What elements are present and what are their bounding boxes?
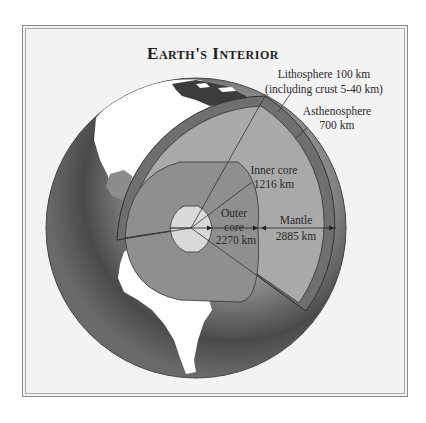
asthenosphere-label: Asthenosphere xyxy=(303,105,371,118)
inner-core-layer xyxy=(170,206,212,252)
lithosphere-label: Lithosphere 100 km xyxy=(278,68,371,81)
lithosphere-sublabel: (including crust 5-40 km) xyxy=(265,83,383,96)
outer-core-value: 2270 km xyxy=(216,234,257,246)
mantle-label: Mantle xyxy=(280,214,313,226)
outer-core-label: Outer xyxy=(221,207,247,219)
outer-core-label-2: core xyxy=(224,221,244,233)
mantle-value: 2885 km xyxy=(276,230,317,242)
inner-core-label: Inner core xyxy=(251,164,298,176)
inner-core-value: 1216 km xyxy=(254,178,295,190)
earth-interior-diagram: Lithosphere 100 km (including crust 5-40… xyxy=(0,0,426,423)
asthenosphere-value: 700 km xyxy=(320,119,355,131)
